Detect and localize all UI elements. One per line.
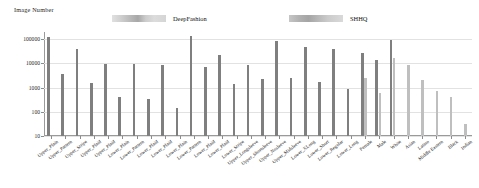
bar-shhq xyxy=(407,65,410,136)
bar-deepfashion xyxy=(261,79,264,136)
bar-deepfashion xyxy=(332,49,335,136)
bar-deepfashion xyxy=(104,64,107,136)
bar-deepfashion xyxy=(390,40,393,136)
bar-chart-figure: Image Number DeepFashion SHHQ 1010010001… xyxy=(0,0,479,188)
bar-deepfashion xyxy=(76,49,79,136)
bar-deepfashion xyxy=(190,36,193,136)
legend-swatch-deepfashion xyxy=(112,15,166,22)
bar-deepfashion xyxy=(347,89,350,136)
bar-shhq xyxy=(364,78,367,136)
bar-deepfashion xyxy=(176,108,179,136)
legend-swatch-shhq xyxy=(289,15,343,22)
gridline xyxy=(44,39,472,40)
legend-item-shhq: SHHQ xyxy=(289,12,367,24)
bar-shhq xyxy=(393,58,396,136)
bar-deepfashion xyxy=(375,60,378,136)
bar-deepfashion xyxy=(275,41,278,136)
y-tick-mark xyxy=(41,63,44,64)
y-tick-label: 100 xyxy=(32,109,40,115)
bar-deepfashion xyxy=(247,65,250,136)
legend-label-deepfashion: DeepFashion xyxy=(173,15,207,22)
bar-deepfashion xyxy=(290,78,293,136)
legend-label-shhq: SHHQ xyxy=(350,15,367,22)
bar-deepfashion xyxy=(304,47,307,136)
bar-deepfashion xyxy=(90,83,93,136)
bar-deepfashion xyxy=(218,55,221,136)
y-tick-mark xyxy=(41,39,44,40)
chart-legend: DeepFashion SHHQ xyxy=(0,12,479,26)
y-tick-mark xyxy=(41,112,44,113)
bar-shhq xyxy=(464,124,467,136)
bar-deepfashion xyxy=(204,67,207,136)
x-tick-label: Female xyxy=(359,139,373,152)
x-tick-label: White xyxy=(389,139,402,150)
bar-shhq xyxy=(379,93,382,136)
legend-item-deepfashion: DeepFashion xyxy=(112,12,207,24)
bar-deepfashion xyxy=(47,37,50,136)
y-tick-mark xyxy=(41,88,44,89)
bar-deepfashion xyxy=(133,64,136,136)
bar-shhq xyxy=(436,91,439,136)
bar-deepfashion xyxy=(61,74,64,136)
plot-area: 10100100010000100000 xyxy=(44,32,472,136)
y-tick-label: 100000 xyxy=(23,36,40,42)
bar-deepfashion xyxy=(318,82,321,136)
x-tick-label: Indian xyxy=(460,139,473,151)
x-tick-label: Male xyxy=(376,139,387,149)
x-axis-tick-labels: Upper_PlainUpper_PatternUpper_StripeUppe… xyxy=(44,136,479,188)
y-tick-label: 10 xyxy=(34,133,40,139)
bar-shhq xyxy=(421,80,424,136)
x-tick-label: Asian xyxy=(404,139,416,150)
bar-deepfashion xyxy=(147,99,150,136)
y-tick-label: 10000 xyxy=(26,60,40,66)
y-tick-label: 1000 xyxy=(29,85,40,91)
bar-shhq xyxy=(450,97,453,136)
bar-deepfashion xyxy=(233,84,236,136)
bar-deepfashion xyxy=(361,53,364,136)
bar-deepfashion xyxy=(118,97,121,136)
x-tick-label: Black xyxy=(447,139,459,150)
bar-deepfashion xyxy=(161,65,164,136)
